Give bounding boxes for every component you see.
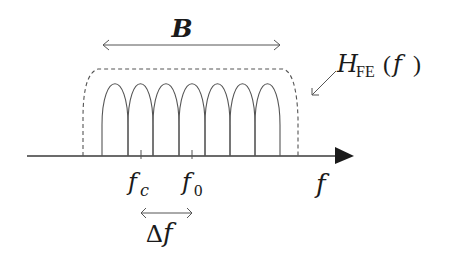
f0-label: f 0 <box>180 168 203 200</box>
spacing-label-f: f <box>161 218 177 248</box>
subcarrier-lobe <box>230 84 255 156</box>
subcarrier-lobe <box>179 84 205 156</box>
f0-label-sub: 0 <box>194 181 203 200</box>
frequency-axis <box>27 147 354 164</box>
subcarrier-lobe <box>102 84 128 156</box>
filter-label: H FE ( f ) <box>336 50 421 80</box>
subcarrier-lobes <box>102 84 280 156</box>
axis-arrowhead-icon <box>335 147 354 164</box>
filter-label-close-paren: ) <box>413 51 421 77</box>
filter-pointer-arrow <box>312 71 336 95</box>
f0-label-main: f <box>180 168 195 196</box>
multicarrier-spectrum-diagram: B H FE ( f ) f f c f 0 Δ f <box>0 0 456 264</box>
filter-label-arg: f <box>391 50 406 78</box>
fc-label-sub: c <box>140 181 149 200</box>
filter-label-sub: FE <box>356 63 375 80</box>
subcarrier-lobe <box>153 84 179 156</box>
fc-label-main: f <box>126 168 141 196</box>
filter-response-curve <box>83 69 298 156</box>
spacing-label: Δ f <box>146 218 177 248</box>
subcarrier-lobe <box>255 84 280 156</box>
spacing-arrow <box>141 208 192 218</box>
axis-label: f <box>314 169 330 199</box>
subcarrier-lobe <box>205 84 230 156</box>
bandwidth-label: B <box>170 14 192 43</box>
filter-label-open-paren: ( <box>383 51 391 77</box>
subcarrier-lobe <box>128 84 153 156</box>
spacing-label-delta: Δ <box>146 219 163 248</box>
fc-label: f c <box>126 168 149 200</box>
